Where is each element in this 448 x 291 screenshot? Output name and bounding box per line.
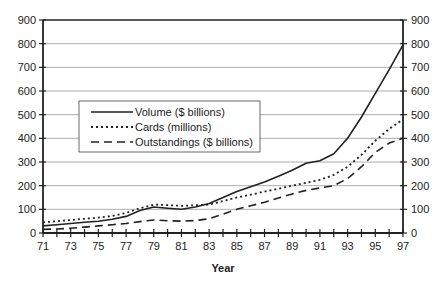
x-tick-label: 79 xyxy=(148,240,160,252)
legend-label-outstandings: Outstandings ($ billions) xyxy=(135,136,253,148)
y-tick-label-right: 100 xyxy=(411,203,429,215)
y-tick-label-left: 700 xyxy=(18,61,36,73)
x-tick-label: 91 xyxy=(314,240,326,252)
y-tick-label-right: 700 xyxy=(411,61,429,73)
y-tick-label-right: 600 xyxy=(411,85,429,97)
y-tick-label-left: 300 xyxy=(18,156,36,168)
y-tick-label-right: 0 xyxy=(411,227,417,239)
x-tick-label: 89 xyxy=(286,240,298,252)
y-tick-label-left: 900 xyxy=(18,14,36,26)
legend-label-cards: Cards (millions) xyxy=(135,121,211,133)
x-tick-label: 85 xyxy=(231,240,243,252)
y-tick-label-right: 300 xyxy=(411,156,429,168)
x-tick-label: 95 xyxy=(369,240,381,252)
y-tick-label-right: 800 xyxy=(411,38,429,50)
left-y-axis-ticks: 0100200300400500600700800900 xyxy=(18,14,46,239)
x-tick-label: 75 xyxy=(92,240,104,252)
x-tick-label: 71 xyxy=(37,240,49,252)
y-tick-label-right: 900 xyxy=(411,14,429,26)
x-tick-label: 73 xyxy=(65,240,77,252)
x-tick-label: 93 xyxy=(341,240,353,252)
y-tick-label-left: 200 xyxy=(18,180,36,192)
y-tick-label-left: 100 xyxy=(18,203,36,215)
x-axis-title: Year xyxy=(211,262,235,274)
x-tick-label: 83 xyxy=(203,240,215,252)
legend: Volume ($ billions) Cards (millions) Out… xyxy=(79,101,260,152)
y-tick-label-left: 600 xyxy=(18,85,36,97)
y-tick-label-right: 400 xyxy=(411,132,429,144)
legend-label-volume: Volume ($ billions) xyxy=(135,106,225,118)
y-tick-label-left: 0 xyxy=(30,227,36,239)
right-y-axis-ticks: 0100200300400500600700800900 xyxy=(400,14,429,239)
y-tick-label-left: 400 xyxy=(18,132,36,144)
x-tick-label: 87 xyxy=(258,240,270,252)
x-tick-label: 77 xyxy=(120,240,132,252)
y-tick-label-left: 500 xyxy=(18,109,36,121)
x-tick-label: 97 xyxy=(397,240,409,252)
y-tick-label-left: 800 xyxy=(18,38,36,50)
y-tick-label-right: 500 xyxy=(411,109,429,121)
y-tick-label-right: 200 xyxy=(411,180,429,192)
x-tick-label: 81 xyxy=(175,240,187,252)
line-chart: 0100200300400500600700800900 01002003004… xyxy=(0,0,448,291)
